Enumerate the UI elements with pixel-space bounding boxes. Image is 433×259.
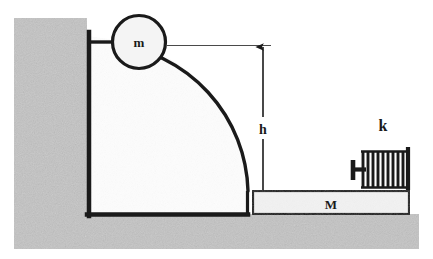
spring-coils <box>363 151 403 188</box>
left-wall <box>14 18 87 215</box>
spring-assembly <box>352 147 408 190</box>
spring-constant-label: k <box>379 117 388 134</box>
diagram-canvas: m h M <box>0 0 433 259</box>
ball-mass-label: m <box>134 35 145 50</box>
height-label: h <box>259 122 267 137</box>
physics-diagram: m h M <box>0 0 433 259</box>
block-mass-label: M <box>325 197 337 212</box>
ground-surface <box>14 214 419 249</box>
